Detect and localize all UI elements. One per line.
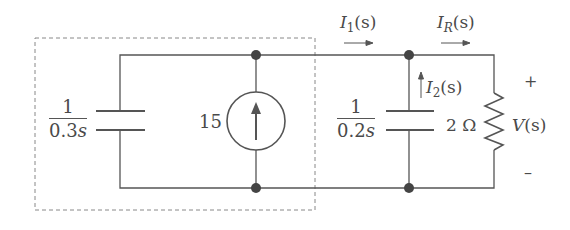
ir-arrow-icon <box>441 41 470 46</box>
voltage-label: V(s) <box>512 115 546 135</box>
right-capacitor-denominator: 0.2 <box>337 120 366 141</box>
current-i2-label: I2(s) <box>426 77 462 100</box>
nodes <box>251 50 414 193</box>
left-capacitor-variable: s <box>78 120 87 141</box>
i2-arrow-icon <box>419 72 424 98</box>
resistor-value: 2 Ω <box>446 115 476 135</box>
voltage-arg: (s) <box>524 115 546 135</box>
voltage-minus-sign: – <box>524 163 532 182</box>
i1-arrow-icon <box>344 41 373 46</box>
ir-subscript: R <box>444 21 453 35</box>
current-i1-label: I1(s) <box>340 12 376 35</box>
i2-arg: (s) <box>440 77 462 97</box>
voltage-symbol: V <box>512 115 524 135</box>
right-capacitor-label: 1 0.2s <box>337 97 375 141</box>
left-capacitor-label: 1 0.3s <box>49 97 87 141</box>
resistor-symbol <box>485 93 503 150</box>
ir-symbol: I <box>437 12 444 32</box>
right-capacitor-numerator: 1 <box>348 97 363 117</box>
left-capacitor-symbol <box>96 111 145 130</box>
i1-arg: (s) <box>354 12 376 32</box>
fraction-bar <box>337 118 375 119</box>
i2-symbol: I <box>426 77 433 97</box>
fraction-bar <box>49 118 87 119</box>
right-capacitor-variable: s <box>366 120 375 141</box>
current-source-symbol <box>227 92 285 150</box>
left-capacitor-numerator: 1 <box>60 97 75 117</box>
wires <box>120 55 494 188</box>
voltage-plus-sign: + <box>524 72 537 91</box>
right-capacitor-symbol <box>386 111 434 130</box>
ir-arg: (s) <box>453 12 475 32</box>
left-capacitor-denominator: 0.3 <box>49 120 78 141</box>
current-ir-label: IR(s) <box>437 12 475 35</box>
i1-symbol: I <box>340 12 347 32</box>
current-source-value: 15 <box>199 111 222 132</box>
